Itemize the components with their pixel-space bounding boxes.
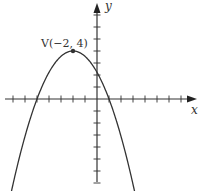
parabola-curve — [11, 51, 136, 191]
parabola-graph: V(−2, 4) x y — [0, 0, 200, 191]
x-axis-label: x — [191, 103, 198, 117]
y-axis-arrow-icon — [94, 3, 101, 13]
y-axis-label: y — [104, 0, 112, 13]
vertex-label: V(−2, 4) — [40, 37, 88, 50]
x-axis-arrow-icon — [187, 96, 197, 103]
